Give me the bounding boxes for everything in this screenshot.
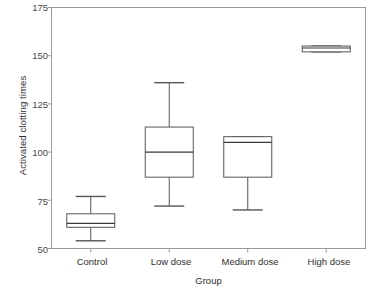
box-low-dose bbox=[145, 83, 193, 206]
plot-frame bbox=[52, 8, 366, 249]
plot-canvas bbox=[0, 0, 376, 292]
y-tick-marks bbox=[48, 8, 52, 249]
box-medium-dose bbox=[224, 137, 272, 210]
box-high-dose bbox=[302, 46, 350, 52]
box-plot-series bbox=[67, 46, 351, 241]
x-tick-marks bbox=[91, 249, 327, 253]
box-control bbox=[67, 196, 115, 240]
boxplot-chart: Activated clotting times 175 150 125 100… bbox=[0, 0, 376, 292]
